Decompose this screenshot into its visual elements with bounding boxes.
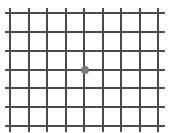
grid-vertical-line (157, 8, 159, 132)
grid-vertical-line (102, 8, 104, 132)
grid-vertical-line (46, 8, 48, 132)
amsler-grid (0, 0, 170, 133)
center-fixation-dot (81, 66, 89, 74)
grid-vertical-line (65, 8, 67, 132)
grid-vertical-line (120, 8, 122, 132)
grid-vertical-line (9, 8, 11, 132)
grid-vertical-line (28, 8, 30, 132)
grid-vertical-line (139, 8, 141, 132)
